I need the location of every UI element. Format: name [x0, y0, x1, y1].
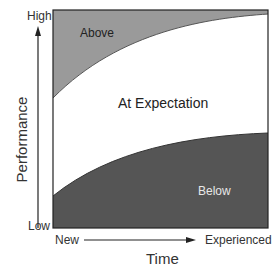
x-tick-new: New [55, 233, 79, 247]
x-tick-experienced: Experienced [205, 233, 272, 247]
x-axis-arrowhead-icon [186, 237, 196, 243]
y-axis-label: Performance [13, 95, 30, 185]
x-axis-label: Time [146, 250, 179, 267]
y-tick-high: High [27, 9, 52, 23]
region-label-below: Below [198, 184, 231, 198]
y-tick-low: Low [28, 219, 50, 233]
region-label-above: Above [80, 26, 114, 40]
region-label-at-expectation: At Expectation [118, 95, 208, 111]
y-axis-arrowhead-icon [35, 26, 41, 36]
